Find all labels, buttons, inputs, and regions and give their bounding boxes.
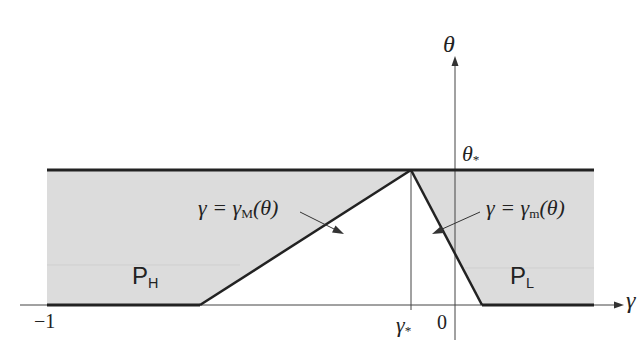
pointer-gamma-M-arrow-icon (332, 226, 344, 235)
diagram-canvas (0, 0, 642, 357)
theta-axis-arrow-icon (452, 56, 459, 66)
region-ph-fill (47, 170, 411, 305)
region-ph-label: PH (132, 264, 158, 290)
gamma-axis-arrow-icon (614, 302, 624, 309)
region-pl-label: PL (510, 264, 534, 290)
x-tick-minus-one: −1 (34, 311, 55, 331)
gamma-star-label: γ* (396, 314, 411, 338)
region-pl-fill (411, 170, 594, 305)
gamma-axis-label: γ (626, 288, 635, 312)
x-tick-zero: 0 (437, 312, 447, 332)
theta-star-label: θ* (462, 143, 479, 167)
curve-gamma-m-label: γ = γm(θ) (486, 197, 565, 221)
curve-gamma-M-label: γ = γM(θ) (198, 197, 278, 221)
theta-axis-label: θ (443, 32, 455, 56)
